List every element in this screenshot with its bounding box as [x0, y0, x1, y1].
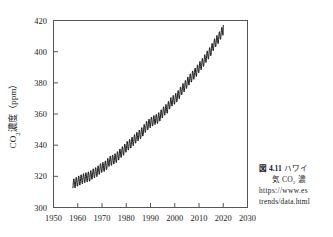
svg-text:CO2濃度（ppm）: CO2濃度（ppm）	[7, 80, 21, 149]
figure-container: 1950196019701980199020002010202020303003…	[0, 0, 333, 237]
x-axis-tick-label: 2000	[166, 214, 183, 223]
y-axis-tick-label: 320	[34, 172, 47, 181]
x-axis-tick-label: 1990	[142, 214, 159, 223]
figure-caption: 図 4.11 ハワイ 気 CO₂ 濃 https://www.es trends…	[259, 163, 333, 207]
caption-title-text: ハワイ	[284, 164, 308, 173]
x-axis-tick-label: 1950	[45, 214, 62, 223]
x-axis-tick-label: 2030	[239, 214, 256, 223]
caption-title-line: 図 4.11 ハワイ	[259, 163, 333, 174]
y-axis-tick-label: 380	[34, 79, 47, 88]
y-axis-tick-label: 400	[34, 48, 47, 57]
y-axis-tick-label: 340	[34, 141, 47, 150]
caption-source-url-line2[interactable]: trends/data.html	[259, 196, 333, 207]
x-axis-tick-label: 1960	[69, 214, 86, 223]
y-axis-title: CO2濃度（ppm）	[7, 80, 21, 149]
caption-source-url-line1[interactable]: https://www.es	[259, 185, 333, 196]
x-axis-tick-label: 1980	[118, 214, 135, 223]
y-axis-tick-label: 300	[34, 204, 47, 213]
x-axis-tick-label: 1970	[93, 214, 110, 223]
x-axis-tick-label: 2010	[190, 214, 207, 223]
co2-line-chart: 1950196019701980199020002010202020303003…	[0, 0, 262, 237]
caption-figure-number: 図 4.11	[259, 164, 282, 173]
y-axis-tick-label: 360	[34, 110, 47, 119]
y-axis-tick-label: 420	[34, 17, 47, 26]
x-axis-tick-label: 2020	[215, 214, 232, 223]
caption-second-line: 気 CO₂ 濃	[259, 174, 333, 185]
chart-plot-svg: 1950196019701980199020002010202020303003…	[0, 0, 262, 237]
